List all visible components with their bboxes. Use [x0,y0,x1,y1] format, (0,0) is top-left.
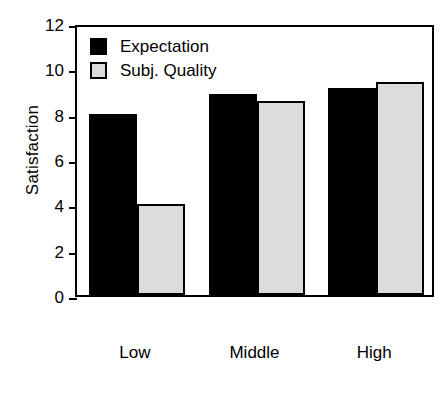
y-tick-mark [69,71,77,73]
x-category-label-low: Low [119,343,150,363]
y-tick-label: 10 [45,61,64,81]
gray-square-icon [90,62,107,79]
plot-area: 024681012 Expectation Subj. Quality [75,25,434,297]
bar-high-subj-quality [376,82,424,295]
legend-label-expectation: Expectation [120,38,209,55]
bar-low-expectation [89,114,137,295]
y-axis-title: Satisfaction [23,70,43,230]
y-tick-mark [69,207,77,209]
x-category-label-high: High [357,343,392,363]
y-tick-label: 4 [55,197,64,217]
y-tick-mark [69,26,77,28]
bar-low-subj-quality [137,204,185,295]
y-tick-mark [69,162,77,164]
bar-high-expectation [328,88,376,295]
y-tick-mark [69,298,77,300]
chart-legend: Expectation Subj. Quality [90,34,216,82]
y-tick-label: 0 [55,288,64,308]
legend-item-subj-quality: Subj. Quality [90,58,216,82]
y-tick-label: 12 [45,16,64,36]
y-tick-label: 2 [55,243,64,263]
bar-chart-figure: Satisfaction 024681012 Expectation Subj.… [0,0,444,395]
y-tick-label: 6 [55,152,64,172]
y-tick-label: 8 [55,107,64,127]
y-tick-mark [69,117,77,119]
bar-middle-subj-quality [257,101,305,295]
legend-item-expectation: Expectation [90,34,216,58]
x-category-label-middle: Middle [229,343,279,363]
bar-middle-expectation [209,94,257,295]
legend-label-subj-quality: Subj. Quality [120,62,216,79]
black-square-icon [90,38,107,55]
y-tick-mark [69,253,77,255]
